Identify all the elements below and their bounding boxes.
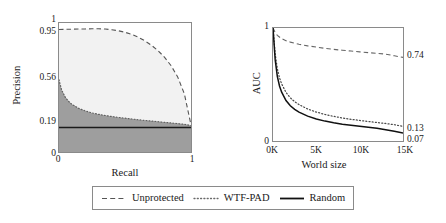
x-tick-1: 1 xyxy=(182,155,202,165)
y-tick-019: 0.19 xyxy=(20,117,56,127)
x-tick-5k: 5K xyxy=(304,146,328,156)
plot-area-auc-world-size xyxy=(272,27,404,142)
legend-entry-wtf-pad: WTF-PAD xyxy=(193,193,270,204)
plot-area-precision-recall xyxy=(58,22,192,153)
panel-auc-world-size: AUC 1 0 0K 5K 10K 15K World size 0.74 0.… xyxy=(223,0,446,180)
panel-precision-recall: Precision 1 0.95 0.56 0.19 0 0 1 Recall xyxy=(0,0,223,180)
x-tick-15k: 15K xyxy=(392,146,418,156)
legend-label-random: Random xyxy=(310,193,346,204)
dotted-line-icon xyxy=(193,195,219,202)
y-axis-title-auc: AUC xyxy=(252,58,263,108)
x-tick-0k: 0K xyxy=(260,146,284,156)
annotation-074: 0.74 xyxy=(407,51,424,61)
figure-root: Precision 1 0.95 0.56 0.19 0 0 1 Recall xyxy=(0,0,446,223)
x-axis-title-world-size: World size xyxy=(284,160,364,171)
y-tick-056: 0.56 xyxy=(20,73,56,83)
solid-line-icon xyxy=(279,195,305,202)
annotation-007: 0.07 xyxy=(407,135,424,145)
y-tick-1-right: 1 xyxy=(245,22,269,32)
legend-entry-random: Random xyxy=(279,193,346,204)
x-tick-0: 0 xyxy=(48,155,68,165)
curve-unprotected-auc xyxy=(273,28,403,57)
dashed-line-icon xyxy=(101,195,127,202)
annotation-013: 0.13 xyxy=(407,124,424,134)
x-axis-title-recall: Recall xyxy=(95,168,155,179)
x-tick-10k: 10K xyxy=(348,146,374,156)
y-axis-title-precision: Precision xyxy=(12,55,23,115)
auc-world-size-curves xyxy=(273,28,403,141)
legend-entry-unprotected: Unprotected xyxy=(101,193,184,204)
y-tick-095: 0.95 xyxy=(20,27,56,37)
figure-legend: Unprotected WTF-PAD Random xyxy=(92,186,354,210)
precision-recall-curves xyxy=(59,23,191,152)
y-tick-1: 1 xyxy=(20,15,56,25)
legend-label-wtf-pad: WTF-PAD xyxy=(224,193,270,204)
legend-label-unprotected: Unprotected xyxy=(132,193,184,204)
